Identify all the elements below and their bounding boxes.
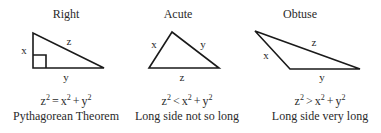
obtuse-triangle-shape	[255, 31, 360, 69]
obtuse-title: Obtuse	[283, 7, 317, 21]
acute-equation: z2<x2+y2	[162, 93, 213, 108]
right-side-y-label: y	[63, 71, 69, 83]
acute-triangle-shape	[149, 32, 219, 68]
right-title: Right	[53, 7, 80, 21]
obtuse-side-y-label: y	[319, 71, 325, 83]
right-equation: z2=x2+y2	[41, 93, 92, 108]
acute-caption: Long side not so long	[135, 109, 239, 123]
right-caption: Pythagorean Theorem	[13, 109, 120, 123]
obtuse-caption: Long side very long	[272, 109, 368, 123]
acute-title: Acute	[164, 7, 193, 21]
right-triangle-panel: Right x z y z2=x2+y2 Pythagorean Theorem	[13, 7, 120, 123]
acute-triangle-panel: Acute x y z z2<x2+y2 Long side not so lo…	[135, 7, 239, 123]
triangle-types-diagram: Right x z y z2=x2+y2 Pythagorean Theorem…	[0, 0, 381, 133]
acute-side-x-label: x	[151, 38, 157, 50]
obtuse-side-z-label: z	[312, 36, 317, 48]
acute-side-y-label: y	[200, 38, 206, 50]
right-angle-marker	[33, 55, 46, 68]
obtuse-equation: z2>x2+y2	[295, 93, 346, 108]
diagram-canvas: Right x z y z2=x2+y2 Pythagorean Theorem…	[0, 0, 381, 133]
right-side-x-label: x	[21, 44, 27, 56]
right-side-z-label: z	[67, 35, 72, 47]
obtuse-triangle-panel: Obtuse x z y z2>x2+y2 Long side very lon…	[255, 7, 368, 123]
acute-side-z-label: z	[180, 71, 185, 83]
obtuse-side-x-label: x	[263, 49, 269, 61]
